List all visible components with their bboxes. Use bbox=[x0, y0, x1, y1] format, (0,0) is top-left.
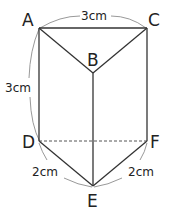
vertex-label-e: E bbox=[87, 191, 98, 211]
dim-arc-ac-right bbox=[111, 16, 146, 28]
dim-label-de: 2cm bbox=[32, 165, 58, 179]
vertex-label-c: C bbox=[148, 10, 160, 30]
dim-label-ad: 3cm bbox=[5, 81, 31, 95]
dim-arc-ac bbox=[40, 16, 80, 28]
vertex-label-d: D bbox=[22, 132, 35, 152]
edge-cb bbox=[93, 28, 147, 73]
vertex-label-f: F bbox=[150, 132, 160, 152]
edge-ab bbox=[39, 28, 93, 73]
dim-arc-de bbox=[39, 143, 47, 160]
dim-arc-ad-top bbox=[29, 29, 39, 78]
dim-label-ac: 3cm bbox=[81, 9, 107, 23]
vertex-label-a: A bbox=[22, 10, 34, 30]
dim-label-ef: 2cm bbox=[128, 165, 154, 179]
prism-diagram: A C B D F E 3cm 3cm 2cm 2cm bbox=[0, 0, 171, 214]
vertex-label-b: B bbox=[87, 50, 99, 70]
